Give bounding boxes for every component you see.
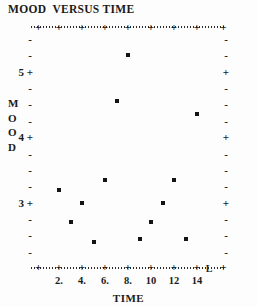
y-tick-minor-left-3.50: - — [28, 164, 32, 175]
y-axis-title-letter-1: O — [8, 111, 18, 126]
y-tick-minor-right-3.50: - — [224, 164, 228, 175]
x-tick-major-14-bottom: + — [194, 262, 200, 273]
mood-versus-time-chart: MOOD VERSUS TIME ++++++++++++++2.4.6.8.1… — [0, 0, 257, 307]
x-tick-major-6-bottom: + — [102, 262, 108, 273]
x-tick-label-2: 2. — [55, 276, 63, 287]
y-axis-title-letter-0: M — [8, 96, 18, 111]
x-tick-label-8: 8. — [124, 276, 132, 287]
x-tick-label-14: 14 — [192, 276, 203, 287]
x-tick-major-12-bottom: + — [171, 262, 177, 273]
x-axis-title: TIME — [0, 292, 257, 304]
y-axis-title-letter-3: D — [8, 140, 18, 155]
y-tick-major-left-5.00: + — [27, 66, 33, 77]
x-tick-edge-right-top: + — [220, 22, 226, 33]
y-tick-minor-right-5.25: - — [224, 50, 228, 61]
y-tick-minor-right-3.75: - — [224, 148, 228, 159]
x-tick-label-12: 12 — [169, 276, 180, 287]
y-tick-minor-left-5.50: - — [28, 34, 32, 45]
y-tick-minor-left-4.50: - — [28, 99, 32, 110]
data-point-11 — [184, 237, 188, 241]
data-point-2 — [80, 201, 84, 205]
x-tick-major-2-top: + — [56, 22, 62, 33]
y-tick-minor-left-2.50: - — [28, 230, 32, 241]
y-tick-minor-right-2.25: - — [224, 246, 228, 257]
y-tick-label-5: 5 — [19, 66, 25, 77]
y-tick-label-4: 4 — [19, 132, 25, 143]
data-point-4 — [103, 178, 107, 182]
y-tick-minor-left-5.25: - — [28, 50, 32, 61]
y-tick-minor-left-4.25: - — [28, 115, 32, 126]
x-tick-label-4: 4. — [78, 276, 86, 287]
y-axis-title-letter-2: O — [8, 125, 18, 140]
plot-area: ++++++++++++++2.4.6.8.101214++++------++… — [36, 26, 220, 268]
y-tick-minor-left-2.25: - — [28, 246, 32, 257]
data-point-7 — [138, 237, 142, 241]
y-axis-title: MOOD — [8, 96, 18, 154]
x-tick-edge-left-bottom: + — [35, 262, 41, 273]
y-tick-minor-right-4.50: - — [224, 99, 228, 110]
chart-title: MOOD VERSUS TIME — [8, 3, 134, 15]
x-tick-major-14-top: + — [194, 22, 200, 33]
y-tick-major-left-4.00: + — [27, 132, 33, 143]
data-point-5 — [115, 99, 119, 103]
x-tick-major-4-top: + — [79, 22, 85, 33]
x-tick-major-2-bottom: + — [56, 262, 62, 273]
x-tick-major-8-bottom: + — [125, 262, 131, 273]
data-point-0 — [57, 188, 61, 192]
y-tick-minor-right-4.75: - — [224, 83, 228, 94]
data-point-9 — [161, 201, 165, 205]
x-tick-major-10-bottom: + — [148, 262, 154, 273]
y-tick-major-right-4.00: + — [223, 132, 229, 143]
y-tick-minor-right-2.50: - — [224, 230, 228, 241]
x-tick-label-6: 6. — [101, 276, 109, 287]
x-tick-major-4-bottom: + — [79, 262, 85, 273]
data-point-3 — [92, 240, 96, 244]
y-tick-minor-left-4.75: - — [28, 83, 32, 94]
y-tick-minor-right-3.25: - — [224, 181, 228, 192]
x-tick-edge-left-top: + — [35, 22, 41, 33]
data-point-1 — [69, 220, 73, 224]
data-point-8 — [149, 220, 153, 224]
y-tick-major-right-5.00: + — [223, 66, 229, 77]
y-tick-minor-left-2.75: - — [28, 213, 32, 224]
y-tick-major-right-3.00: + — [223, 197, 229, 208]
y-tick-minor-right-5.50: - — [224, 34, 228, 45]
x-tick-major-10-top: + — [148, 22, 154, 33]
y-tick-minor-left-3.75: - — [28, 148, 32, 159]
x-tick-major-12-top: + — [171, 22, 177, 33]
x-tick-major-8-top: + — [125, 22, 131, 33]
y-tick-major-left-3.00: + — [27, 197, 33, 208]
y-tick-minor-left-3.25: - — [28, 181, 32, 192]
data-point-10 — [172, 178, 176, 182]
x-tick-edge-right-bottom: + — [220, 262, 226, 273]
data-point-6 — [126, 53, 130, 57]
y-tick-label-3: 3 — [19, 197, 25, 208]
bottom-axis-scan-artifact: L — [206, 264, 213, 274]
x-tick-major-6-top: + — [102, 22, 108, 33]
data-point-12 — [195, 112, 199, 116]
x-tick-label-10: 10 — [146, 276, 157, 287]
y-tick-minor-right-4.25: - — [224, 115, 228, 126]
y-tick-minor-right-2.75: - — [224, 213, 228, 224]
